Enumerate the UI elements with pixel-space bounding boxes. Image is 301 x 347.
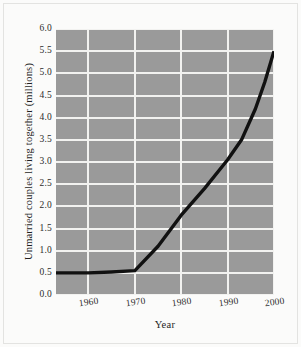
x-axis-title: Year [56, 319, 274, 330]
x-axis-tick-labels: 19601970198019902000 [56, 297, 274, 321]
y-axis-title: Unmarried couples living together (milli… [23, 28, 34, 296]
x-tick-label: 1990 [213, 295, 244, 309]
series-line-chart [56, 29, 274, 295]
x-tick-label: 1970 [120, 295, 151, 309]
x-tick-label: 1960 [74, 295, 105, 309]
x-tick-label: 2000 [259, 295, 290, 309]
series-line-unmarried-couples [56, 51, 274, 273]
x-tick-label: 1980 [166, 295, 197, 309]
chart-figure: 0.00.51.01.52.02.53.03.54.04.55.05.56.0 … [0, 0, 301, 347]
plot-area [56, 29, 274, 295]
